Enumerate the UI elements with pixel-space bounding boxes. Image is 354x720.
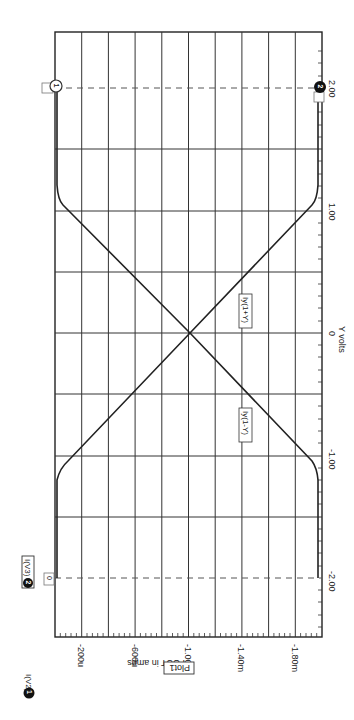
xtick-0: 0: [327, 331, 337, 336]
xtick-1.00: 1.00: [327, 203, 337, 221]
xtick--2.00: -2.00: [327, 571, 337, 592]
cursor-box-bottom[interactable]: 0: [44, 573, 54, 585]
svg-text:Iy(1+Y): Iy(1+Y): [241, 297, 250, 323]
legend-item-2[interactable]: 2 I(V3): [22, 556, 34, 588]
curve-label-iy-1-plus-y: Iy(1+Y): [239, 294, 252, 328]
volts-tick-labels: 2.00 1.00 0 -1.00 -2.00: [327, 80, 337, 592]
svg-text:I(V2): I(V2): [24, 674, 33, 692]
curve-label-iy-1-minus-y: Iy(1-Y): [239, 408, 252, 442]
cursor-1-marker[interactable]: 1: [42, 80, 62, 93]
svg-text:2: 2: [317, 85, 324, 89]
xtick-2.00: 2.00: [327, 80, 337, 98]
svg-text:0: 0: [46, 576, 53, 580]
ytick--1.80m: -1.80m: [290, 644, 300, 672]
ytick--1.40m: -1.40m: [236, 644, 246, 672]
svg-text:1: 1: [53, 84, 60, 88]
legend-item-1[interactable]: 1 I(V2): [24, 674, 35, 699]
chart-canvas: Iy(1+Y) Iy(1-Y) 1 2 0 2.00 1.00 0 -1.00 …: [0, 0, 354, 720]
plot-title: Plot1: [164, 662, 194, 674]
ytick--200u: -200u: [76, 644, 86, 667]
x-axis-title: Y volts: [337, 326, 347, 353]
svg-text:Iy(1-Y): Iy(1-Y): [241, 411, 250, 435]
svg-text:2: 2: [25, 581, 32, 585]
svg-text:Plot1: Plot1: [169, 663, 190, 673]
svg-text:I(V3): I(V3): [23, 559, 32, 577]
xtick--1.00: -1.00: [327, 449, 337, 470]
